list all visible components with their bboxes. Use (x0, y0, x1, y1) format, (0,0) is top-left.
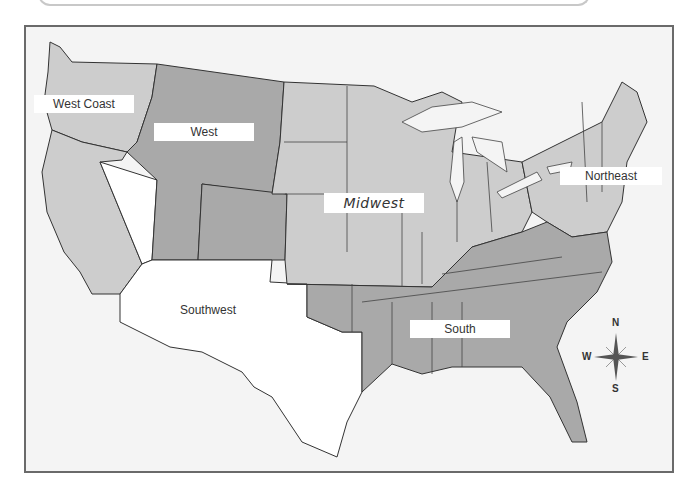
us-regions-map: West Coast West Midwest Northeast Southw… (24, 25, 674, 473)
compass-rose: N S W E (584, 321, 648, 391)
top-panel-edge (38, 0, 590, 6)
compass-rose-icon (584, 321, 648, 391)
compass-e: E (642, 351, 649, 362)
label-southwest: Southwest (158, 300, 258, 320)
label-midwest: Midwest (324, 193, 424, 213)
label-northeast: Northeast (560, 167, 662, 185)
label-west-coast: West Coast (34, 95, 134, 113)
compass-w: W (582, 351, 591, 362)
compass-s: S (612, 383, 619, 394)
compass-n: N (612, 317, 619, 328)
label-south: South (410, 320, 510, 338)
map-shapes (26, 27, 672, 471)
label-west: West (154, 123, 254, 141)
